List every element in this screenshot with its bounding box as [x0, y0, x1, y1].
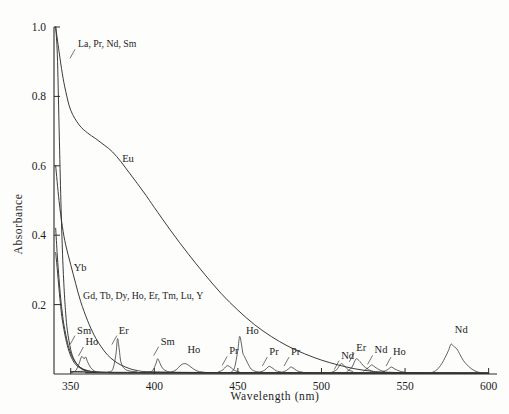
series-label: Yb — [74, 262, 87, 273]
series-label: Ho — [393, 346, 406, 357]
series-label: Ho — [85, 336, 98, 347]
y-tick-label: 0.6 — [32, 160, 47, 172]
series-label: Er — [119, 325, 129, 336]
series-label: Eu — [122, 153, 134, 164]
x-tick-label: 350 — [62, 380, 80, 392]
series-label: Sm — [77, 325, 91, 336]
series-label: Gd, Tb, Dy, Ho, Er, Tm, Lu, Y — [83, 290, 203, 301]
chart-background — [0, 0, 509, 414]
y-tick-label: 0.4 — [32, 229, 47, 241]
series-label: Sm — [161, 336, 175, 347]
y-tick-label: 1.0 — [32, 21, 47, 33]
series-label: Nd — [455, 324, 469, 335]
x-axis-title: Wavelength (nm) — [231, 390, 320, 403]
series-label: Nd — [375, 344, 389, 355]
chart-canvas: 0.20.40.60.81.0 350400450500550600 La, P… — [0, 0, 509, 414]
series-label: Er — [356, 342, 366, 353]
x-tick-label: 600 — [480, 380, 498, 392]
x-tick-label: 400 — [146, 380, 164, 392]
series-label: Pr — [229, 345, 239, 356]
series-label: La, Pr, Nd, Sm — [78, 38, 137, 49]
absorbance-spectrum-figure: 0.20.40.60.81.0 350400450500550600 La, P… — [0, 0, 509, 414]
y-tick-label: 0.8 — [32, 90, 47, 102]
series-label: Nd — [341, 350, 355, 361]
series-label: Pr — [269, 346, 279, 357]
x-tick-label: 550 — [396, 380, 414, 392]
series-label: Ho — [246, 325, 259, 336]
y-axis-title: Absorbance — [12, 194, 24, 255]
series-label: Pr — [291, 346, 301, 357]
y-tick-label: 0.2 — [32, 299, 47, 311]
series-label: Ho — [187, 344, 200, 355]
